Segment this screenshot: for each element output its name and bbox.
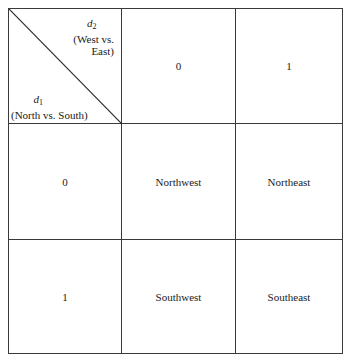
row-variable-description: (North vs. South) [11,109,88,121]
column-header-0: 0 [122,9,235,123]
cell-southeast: Southeast [236,240,342,353]
row-header-1: 1 [9,240,121,353]
row-variable-symbol: d1 [11,93,66,109]
column-header-1: 1 [236,9,342,123]
column-variable-symbol: d2 [73,17,110,33]
cell-northwest: Northwest [122,124,235,239]
column-variable-description-line1: (West vs. [73,33,114,45]
dummy-coding-table: d2 (West vs. East) d1 (North vs. South) … [8,8,343,354]
cell-southwest: Southwest [122,240,235,353]
column-variable-label: d2 (West vs. East) [73,17,114,57]
cell-northeast: Northeast [236,124,342,239]
column-variable-description-line2: East) [73,45,114,57]
row-header-0: 0 [9,124,121,239]
row-variable-label: d1 (North vs. South) [11,93,88,121]
corner-header-cell: d2 (West vs. East) d1 (North vs. South) [9,9,122,124]
